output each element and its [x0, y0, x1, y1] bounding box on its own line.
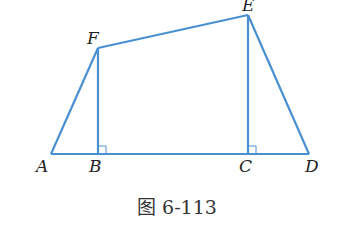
- point-label-a: A: [34, 156, 48, 176]
- point-label-c: C: [239, 156, 252, 176]
- geometry-figure: A B C D E F 图 6-113: [0, 0, 345, 226]
- right-angle-mark-b: [98, 146, 106, 154]
- point-label-b: B: [88, 156, 102, 176]
- right-angle-mark-c: [248, 146, 256, 154]
- point-label-f: F: [86, 28, 100, 48]
- segment-af: [51, 48, 98, 154]
- segment-fe: [98, 15, 248, 48]
- segment-ed: [248, 15, 309, 154]
- point-label-e: E: [241, 0, 255, 15]
- point-label-d: D: [304, 156, 319, 176]
- figure-caption: 图 6-113: [137, 196, 217, 218]
